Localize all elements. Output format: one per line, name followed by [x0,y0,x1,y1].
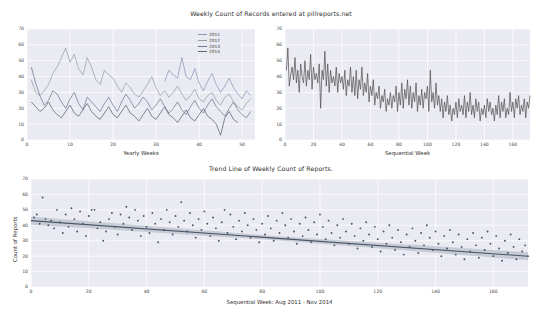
y-tick-label: 10 [269,122,282,127]
x-tick-label: 140 [428,289,444,294]
x-tick-label: 40 [139,289,155,294]
x-tick-label: 80 [254,289,270,294]
y-tick-label: 40 [11,74,24,79]
legend-label: 2013 [209,44,220,49]
x-tick-label: 100 [312,289,328,294]
x-tick-label: 0 [23,289,39,294]
y-tick-label: 10 [15,269,28,274]
y-tick-label: 40 [269,74,282,79]
legend-swatch-icon [198,34,207,35]
legend-years[interactable]: 2011201220132014 [197,31,240,56]
x-tick-label: 0 [19,142,35,147]
legend-item-2014[interactable]: 2014 [198,49,238,54]
panel-weekly-by-year: 2011201220132014 [27,29,255,140]
y-tick-label: 20 [11,106,24,111]
legend-label: 2014 [209,49,220,54]
legend-label: 2011 [209,32,220,37]
y-tick-label: 20 [269,106,282,111]
y-tick-label: 60 [269,42,282,47]
x-tick-label: 80 [391,142,407,147]
x-tick-label: 60 [362,142,378,147]
bottom-title: Trend Line of Weekly Count of Reports. [0,165,542,172]
legend-swatch-icon [198,40,207,41]
y-tick-label: 50 [269,58,282,63]
x-tick-label: 0 [277,142,293,147]
x-tick-label: 20 [81,289,97,294]
legend-item-2012[interactable]: 2012 [198,38,238,43]
legend-swatch-icon [198,46,207,47]
x-tick-label: 160 [485,289,501,294]
x-tick-label: 120 [448,142,464,147]
figure-canvas: Weekly Count of Records entered at pillr… [0,0,542,322]
x-tick-label: 40 [334,142,350,147]
line-sequential-weeks [285,29,530,140]
x-tick-label: 160 [505,142,521,147]
x-tick-label: 120 [370,289,386,294]
y-tick-label: 60 [11,42,24,47]
x-tick-label: 50 [234,142,250,147]
bottom-ylabel: Count of Reports [12,217,18,262]
x-tick-label: 30 [148,142,164,147]
y-tick-label: 60 [15,192,28,197]
x-tick-label: 140 [476,142,492,147]
legend-item-2013[interactable]: 2013 [198,44,238,49]
panel-trend-line [31,179,528,287]
scatter-trend-line [31,179,528,287]
y-tick-label: 30 [269,90,282,95]
x-tick-label: 20 [305,142,321,147]
x-tick-label: 40 [191,142,207,147]
y-tick-label: 50 [11,58,24,63]
x-tick-label: 10 [62,142,78,147]
top-right-xlabel: Sequential Week [285,150,530,156]
y-tick-label: 10 [11,122,24,127]
y-tick-label: 30 [11,90,24,95]
legend-item-2011[interactable]: 2011 [198,32,238,37]
top-left-xlabel: Yearly Weeks [27,150,255,156]
x-tick-label: 100 [419,142,435,147]
legend-swatch-icon [198,51,207,52]
y-tick-label: 70 [11,26,24,31]
panel-sequential-weeks [285,29,530,140]
y-tick-label: 70 [15,176,28,181]
y-tick-label: 70 [269,26,282,31]
y-tick-label: 50 [15,207,28,212]
top-left-title: Weekly Count of Records entered at pillr… [0,10,542,17]
x-tick-label: 20 [105,142,121,147]
x-tick-label: 60 [196,289,212,294]
legend-label: 2012 [209,38,220,43]
bottom-xlabel: Sequential Week: Aug 2011 - Nov 2014 [31,299,528,305]
